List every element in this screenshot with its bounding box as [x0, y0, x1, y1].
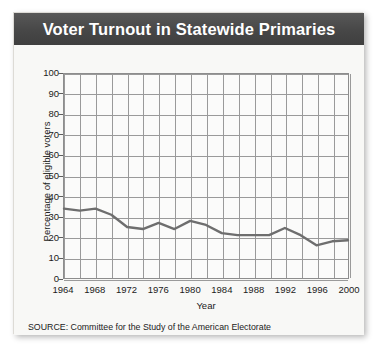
x-axis-tick-label: 1996 [307, 285, 328, 295]
data-line-series [64, 74, 348, 278]
y-axis-title: Percentage of eligible voters [41, 102, 52, 262]
y-axis-tick-label: 80 [17, 109, 59, 119]
y-axis-tick-label: 30 [17, 212, 59, 222]
x-axis-tick-label: 1992 [275, 285, 296, 295]
page-title: Voter Turnout in Statewide Primaries [43, 20, 336, 39]
x-axis-tick-label: 1964 [52, 285, 73, 295]
x-axis-tick-label: 1976 [148, 285, 169, 295]
y-axis-tick-labels: 0102030405060708090100 [14, 73, 59, 279]
turnout-line [64, 209, 348, 246]
x-axis-tick-label: 1968 [84, 285, 105, 295]
figure-card: Voter Turnout in Statewide Primaries 010… [13, 12, 363, 334]
y-axis-tick-label: 100 [17, 68, 59, 78]
source-note: SOURCE: Committee for the Study of the A… [28, 322, 271, 332]
x-axis-tick-label: 1988 [243, 285, 264, 295]
chart-body: 0102030405060708090100 19641968197219761… [14, 45, 364, 335]
y-axis-tick-label: 90 [17, 89, 59, 99]
y-axis-tick-label: 70 [17, 130, 59, 140]
x-axis-tick-label: 1980 [180, 285, 201, 295]
y-axis-tick-label: 0 [17, 274, 59, 284]
gridline-vertical [350, 74, 351, 278]
x-axis-tick-label: 1984 [211, 285, 232, 295]
y-axis-tick-label: 40 [17, 192, 59, 202]
y-axis-tick-label: 20 [17, 233, 59, 243]
y-axis-tick-label: 60 [17, 151, 59, 161]
plot-area [63, 73, 349, 279]
x-axis-title: Year [63, 300, 349, 311]
x-axis-tick-label: 2000 [338, 285, 359, 295]
y-axis-tick-label: 10 [17, 254, 59, 264]
x-axis-tick-label: 1972 [116, 285, 137, 295]
y-axis-tick-label: 50 [17, 171, 59, 181]
chart-title-banner: Voter Turnout in Statewide Primaries [14, 13, 364, 45]
